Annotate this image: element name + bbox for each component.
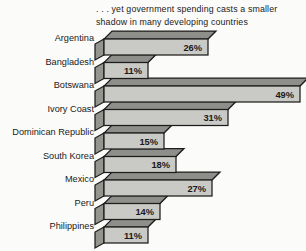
bar-end-cap — [95, 133, 104, 154]
value-label: 18% — [151, 160, 170, 170]
value-label: 27% — [187, 184, 206, 194]
bar-top-face — [104, 219, 156, 227]
chart-title-line-2: shadow in many developing countries — [96, 16, 304, 29]
bar-top-face — [104, 125, 172, 133]
bar-philippines: Philippines11% — [50, 219, 156, 248]
chart-title: . . . yet government spending casts a sm… — [96, 3, 304, 29]
chart-title-line-1: . . . yet government spending casts a sm… — [96, 3, 304, 16]
bar-top-face — [104, 55, 156, 63]
bar-top-face — [104, 78, 306, 86]
bar-end-cap — [95, 86, 104, 107]
bar-end-cap — [95, 157, 104, 178]
bar-end-cap — [95, 63, 104, 84]
chart-svg: Philippines11%Peru14%Mexico27%South Kore… — [0, 0, 306, 251]
category-label: Philippines — [50, 221, 95, 231]
bar-top-face — [104, 102, 236, 110]
bar-end-cap — [95, 110, 104, 131]
value-label: 15% — [139, 137, 158, 147]
value-label: 26% — [183, 43, 202, 53]
category-label: Peru — [75, 198, 94, 208]
value-label: 49% — [275, 90, 294, 100]
category-label: Dominican Republic — [12, 127, 94, 137]
bar-end-cap — [95, 180, 104, 201]
category-label: Argentina — [55, 33, 95, 43]
category-label: Mexico — [65, 174, 94, 184]
bar-end-cap — [95, 227, 104, 248]
bar-top-face — [104, 172, 220, 180]
category-label: South Korea — [43, 151, 95, 161]
bar-top-face — [104, 31, 216, 39]
category-label: Bangladesh — [45, 57, 94, 67]
bar-front-face — [104, 86, 300, 102]
category-label: Ivory Coast — [48, 104, 95, 114]
bar-top-face — [104, 196, 168, 204]
bar-end-cap — [95, 204, 104, 225]
bar-top-face — [104, 149, 184, 157]
category-label: Botswana — [54, 80, 95, 90]
value-label: 11% — [124, 231, 143, 241]
value-label: 11% — [124, 66, 143, 76]
value-label: 14% — [135, 207, 154, 217]
chart: Philippines11%Peru14%Mexico27%South Kore… — [0, 0, 306, 251]
bar-end-cap — [95, 39, 104, 60]
value-label: 31% — [203, 113, 222, 123]
